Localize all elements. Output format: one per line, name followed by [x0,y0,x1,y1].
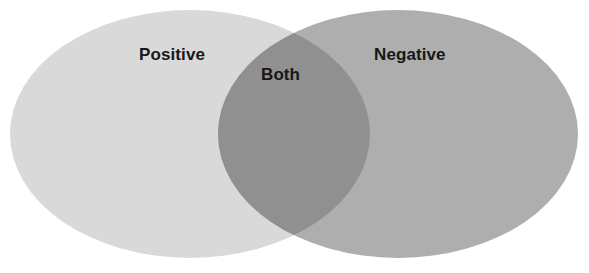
venn-label-positive: Positive [139,46,205,63]
venn-label-negative: Negative [374,46,446,63]
venn-diagram-canvas [0,0,589,273]
venn-diagram: Positive Both Negative [0,0,589,273]
venn-label-both: Both [261,66,300,83]
